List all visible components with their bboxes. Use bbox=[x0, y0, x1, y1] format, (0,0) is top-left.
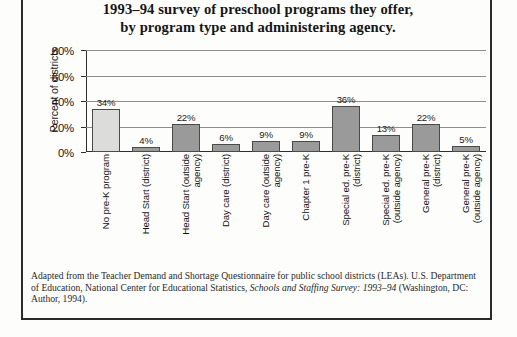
source-note: Adapted from the Teacher Demand and Shor… bbox=[31, 270, 477, 305]
bar[interactable]: 36% bbox=[332, 106, 361, 152]
bar[interactable]: 4% bbox=[132, 147, 161, 152]
source-note-italic-title: Schools and Staffing Survey: 1993–94 bbox=[250, 282, 397, 293]
x-axis-category-label: Special ed. pre-K (outside agency) bbox=[381, 154, 402, 262]
bar-slot: 9% bbox=[286, 50, 326, 152]
bar-slot: 34% bbox=[86, 50, 126, 152]
category-slot: Chapter 1 pre-K bbox=[286, 154, 326, 266]
bar-slot: 22% bbox=[406, 50, 446, 152]
y-tick-label: 40% bbox=[52, 96, 74, 108]
bar-slot: 22% bbox=[166, 50, 206, 152]
bar[interactable]: 34% bbox=[92, 109, 121, 152]
y-tick-mark: 0% bbox=[81, 152, 86, 153]
bar-value-label: 22% bbox=[177, 112, 196, 123]
bar-slot: 6% bbox=[206, 50, 246, 152]
x-axis-category-label: Day care (outside agency) bbox=[261, 154, 282, 262]
bar-value-label: 9% bbox=[299, 129, 312, 140]
category-slot: No pre-K program bbox=[86, 154, 126, 266]
plot-area: 0%20%40%60%80% 34%4%22%6%9%9%36%13%22%5% bbox=[86, 50, 486, 152]
bar[interactable]: 6% bbox=[212, 144, 241, 152]
x-axis-category-label: General pre-K (outside agency) bbox=[461, 154, 482, 262]
category-slot: General pre-K (district) bbox=[406, 154, 446, 266]
bar-value-label: 9% bbox=[259, 129, 272, 140]
bar-value-label: 5% bbox=[459, 134, 472, 145]
x-axis-category-label: No pre-K program bbox=[101, 154, 112, 262]
bar[interactable]: 22% bbox=[172, 124, 201, 152]
bar-slot: 36% bbox=[326, 50, 366, 152]
y-tick-label: 0% bbox=[58, 147, 74, 159]
bar-slot: 4% bbox=[126, 50, 166, 152]
category-slot: Special ed. pre-K (outside agency) bbox=[366, 154, 406, 266]
bar[interactable]: 9% bbox=[252, 141, 281, 152]
bar-slot: 9% bbox=[246, 50, 286, 152]
category-slot: Head Start (district) bbox=[126, 154, 166, 266]
bar-slot: 13% bbox=[366, 50, 406, 152]
x-axis-category-label: Day care (district) bbox=[221, 154, 232, 262]
bar[interactable]: 22% bbox=[412, 124, 441, 152]
bar-chart: Percent of districts 0%20%40%60%80% 34%4… bbox=[24, 44, 486, 266]
chart-title-line-1: 1993–94 survey of preschool programs the… bbox=[40, 0, 476, 18]
bar-value-label: 22% bbox=[417, 112, 436, 123]
y-tick-label: 80% bbox=[52, 45, 74, 57]
category-slot: Special ed. pre-K (district) bbox=[326, 154, 366, 266]
bar[interactable]: 13% bbox=[372, 135, 401, 152]
category-slot: General pre-K (outside agency) bbox=[446, 154, 486, 266]
bar-value-label: 6% bbox=[219, 132, 232, 143]
bar-series: 34%4%22%6%9%9%36%13%22%5% bbox=[86, 50, 486, 152]
x-axis-category-label: Head Start (district) bbox=[141, 154, 152, 262]
x-axis-category-label: Chapter 1 pre-K bbox=[301, 154, 312, 262]
category-slot: Day care (outside agency) bbox=[246, 154, 286, 266]
y-tick-label: 20% bbox=[52, 122, 74, 134]
bar-value-label: 4% bbox=[139, 135, 152, 146]
bar[interactable]: 9% bbox=[292, 141, 321, 152]
bar-value-label: 36% bbox=[337, 94, 356, 105]
bar-value-label: 34% bbox=[97, 97, 116, 108]
category-slot: Day care (district) bbox=[206, 154, 246, 266]
chart-title-line-2: by program type and administering agency… bbox=[40, 18, 476, 36]
category-slot: Head Start (outside agency) bbox=[166, 154, 206, 266]
x-axis-category-label: General pre-K (district) bbox=[421, 154, 442, 262]
x-axis-category-labels: No pre-K programHead Start (district)Hea… bbox=[86, 154, 486, 266]
bar-slot: 5% bbox=[446, 50, 486, 152]
bar-value-label: 13% bbox=[377, 123, 396, 134]
y-tick-label: 60% bbox=[52, 71, 74, 83]
chart-title: 1993–94 survey of preschool programs the… bbox=[40, 0, 476, 36]
x-axis-category-label: Head Start (outside agency) bbox=[181, 154, 202, 262]
x-axis-category-label: Special ed. pre-K (district) bbox=[341, 154, 362, 262]
bar[interactable]: 5% bbox=[452, 146, 481, 152]
